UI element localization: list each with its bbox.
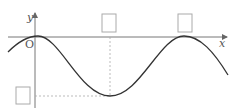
answer-box-1[interactable] [102,14,116,32]
graph-canvas: y O x [0,0,236,112]
sine-curve [8,36,228,96]
x-axis-label: x [219,37,226,50]
y-axis-label: y [26,11,34,24]
answer-box-2[interactable] [178,14,192,32]
answer-box-3[interactable] [16,87,30,104]
origin-label: O [25,38,34,51]
